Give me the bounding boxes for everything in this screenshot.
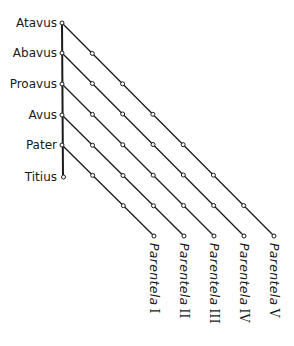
generation-label-abavus: Abavus (13, 46, 57, 60)
generation-label-proavus: Proavus (10, 77, 57, 91)
generation-label-avus: Avus (29, 108, 57, 122)
node-icon (121, 204, 125, 208)
node-icon (152, 204, 156, 208)
node-icon (152, 234, 156, 238)
node-icon (181, 143, 185, 147)
node-icon (242, 234, 246, 238)
node-icon (121, 112, 125, 116)
parentela-label-1: ParentelaI (147, 243, 161, 314)
generation-label-pater: Pater (26, 138, 57, 152)
node-icon (211, 173, 215, 177)
node-icon (90, 82, 94, 86)
node-icon (62, 175, 66, 179)
node-icon (121, 82, 125, 86)
node-icon (121, 143, 125, 147)
node-icon (91, 173, 95, 177)
node-icon (60, 82, 64, 86)
node-icon (272, 234, 276, 238)
node-icon (90, 51, 94, 55)
node-icon (182, 204, 186, 208)
generation-label-atavus: Atavus (16, 16, 57, 30)
node-icon (60, 113, 64, 117)
node-icon (242, 204, 246, 208)
node-icon (60, 51, 64, 55)
node-icon (181, 173, 185, 177)
node-icon (151, 143, 155, 147)
node-icon (91, 143, 95, 147)
node-icon (60, 143, 64, 147)
parentela-label-5: ParentelaV (267, 243, 281, 318)
node-icon (121, 174, 125, 178)
generation-label-titius: Titius (25, 170, 57, 184)
parentela-label-4: ParentelaIV (237, 243, 251, 323)
node-icon (90, 112, 94, 116)
node-icon (212, 204, 216, 208)
parentela-label-2: ParentelaII (177, 243, 191, 319)
node-icon (151, 173, 155, 177)
node-icon (151, 112, 155, 116)
node-icon (212, 234, 216, 238)
parentela-label-3: ParentelaIII (207, 243, 221, 324)
node-icon (182, 234, 186, 238)
node-icon (60, 21, 64, 25)
